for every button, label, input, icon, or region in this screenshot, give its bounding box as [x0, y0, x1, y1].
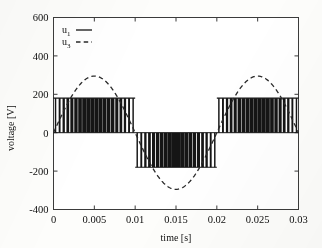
pwm-pulse	[70, 98, 73, 133]
pwm-pulse	[172, 133, 176, 168]
pwm-pulse	[250, 98, 254, 133]
y-tick-label: -200	[29, 166, 48, 177]
pwm-pulse	[262, 98, 266, 133]
pwm-pulse	[234, 98, 237, 133]
pwm-pulse	[184, 133, 188, 168]
pwm-pulse	[128, 98, 130, 133]
pwm-pulse	[124, 98, 126, 133]
voltage-vs-time-plot: 00.0050.010.0150.020.0250.03 6004002000-…	[0, 0, 322, 248]
x-tick-label: 0	[51, 214, 56, 225]
pwm-pulse	[164, 133, 168, 168]
pwm-pulse	[254, 98, 258, 133]
pwm-pulse	[176, 133, 180, 168]
pwm-pulse	[188, 133, 192, 168]
x-tick-label: 0.01	[126, 214, 144, 225]
pwm-pulse	[258, 98, 262, 133]
pwm-pulse	[270, 98, 274, 133]
pwm-pulse	[274, 98, 277, 133]
x-tick-label: 0.005	[83, 214, 107, 225]
y-tick-label: 200	[33, 89, 49, 100]
pwm-pulse	[205, 133, 207, 168]
x-tick-label: 0.015	[164, 214, 188, 225]
pwm-pulse	[144, 133, 146, 168]
pwm-pulse	[180, 133, 184, 168]
y-axis-label: voltage [V]	[5, 105, 16, 151]
pwm-pulse	[63, 98, 65, 133]
pwm-pulse	[279, 98, 282, 133]
pwm-pulse	[86, 98, 90, 133]
y-tick-label: 400	[33, 51, 49, 62]
pwm-pulse	[82, 98, 86, 133]
pwm-pulse	[94, 98, 98, 133]
pwm-pulse	[160, 133, 164, 168]
pwm-pulse	[210, 133, 212, 168]
pwm-pulse	[242, 98, 246, 133]
x-tick-labels: 00.0050.010.0150.020.0250.03	[51, 214, 308, 225]
pwm-pulse	[90, 98, 94, 133]
pwm-pulse	[55, 98, 56, 133]
pwm-pulse	[238, 98, 241, 133]
x-tick-label: 0.03	[289, 214, 307, 225]
pwm-pulse	[115, 98, 118, 133]
pwm-pulse	[107, 98, 111, 133]
x-axis-label: time [s]	[161, 232, 192, 243]
pwm-pulse	[287, 98, 289, 133]
pwm-pulse	[74, 98, 77, 133]
pwm-pulse	[152, 133, 155, 168]
pwm-pulse	[78, 98, 82, 133]
pwm-pulse	[59, 98, 61, 133]
pwm-pulse	[193, 133, 196, 168]
pwm-pulse	[226, 98, 228, 133]
pwm-pulse	[214, 133, 215, 168]
y-tick-label: 0	[43, 128, 48, 139]
x-tick-label: 0.02	[208, 214, 226, 225]
pwm-pulse	[291, 98, 293, 133]
pwm-pulse	[98, 98, 102, 133]
pwm-pulse	[230, 98, 233, 133]
x-tick-label: 0.025	[246, 214, 270, 225]
pwm-pulse	[296, 98, 297, 133]
pwm-pulse	[168, 133, 172, 168]
pwm-pulse	[103, 98, 107, 133]
plot-frame	[54, 18, 299, 210]
y-tick-label: -400	[29, 204, 48, 215]
pwm-pulse	[156, 133, 159, 168]
pwm-pulse	[140, 133, 142, 168]
chart-figure: 00.0050.010.0150.020.0250.03 6004002000-…	[0, 0, 322, 248]
pwm-pulse	[246, 98, 250, 133]
pwm-pulse	[222, 98, 224, 133]
pwm-pulse	[111, 98, 114, 133]
y-tick-label: 600	[33, 12, 49, 23]
pwm-pulse	[266, 98, 270, 133]
pwm-pulse	[197, 133, 200, 168]
